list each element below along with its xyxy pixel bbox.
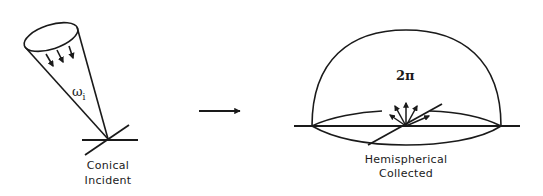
omega-symbol: ω xyxy=(72,84,83,99)
cone-opening-ellipse xyxy=(21,17,82,57)
incident-cone xyxy=(21,17,108,139)
conical-label-line1: Conical xyxy=(87,159,129,172)
hemisphere-base-back-left xyxy=(312,111,382,126)
hemisphere-base-front xyxy=(312,126,501,145)
incident-surface xyxy=(82,125,138,155)
omega-subscript: i xyxy=(83,92,86,102)
hemisphere-base-back-right xyxy=(430,111,501,126)
collected-label-line2: Collected xyxy=(379,167,433,180)
hemispherical-label-line1: Hemispherical xyxy=(365,153,448,166)
incident-solid-angle-label: ωi xyxy=(72,84,86,102)
hemisphere-solid-angle-label: 2π xyxy=(396,68,415,83)
collection-hemisphere xyxy=(312,30,501,145)
incident-label-line2: Incident xyxy=(85,174,132,187)
